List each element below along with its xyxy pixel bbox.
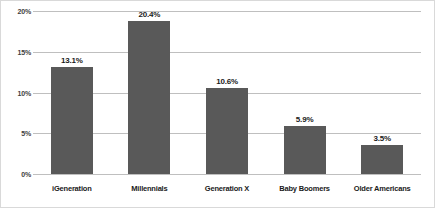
- bar[interactable]: [51, 67, 93, 174]
- bar-value-label: 3.5%: [373, 135, 390, 143]
- bar-group: 5.9%: [266, 11, 344, 174]
- bar[interactable]: [206, 88, 248, 174]
- bar-group: 13.1%: [33, 11, 111, 174]
- x-tick-label: Older Americans: [343, 185, 421, 193]
- bar[interactable]: [128, 21, 170, 174]
- bar-group: 3.5%: [343, 11, 421, 174]
- bar-value-label: 13.1%: [61, 57, 83, 65]
- x-axis-labels: iGenerationMillennialsGeneration XBaby B…: [33, 185, 421, 193]
- bar-chart: 0%5%10%15%20% 13.1%20.4%10.6%5.9%3.5% iG…: [0, 0, 435, 208]
- y-tick-label: 15%: [5, 48, 31, 55]
- x-tick-label: Millennials: [111, 185, 189, 193]
- y-tick-label: 5%: [5, 130, 31, 137]
- bar-group: 10.6%: [188, 11, 266, 174]
- bar-value-label: 10.6%: [216, 78, 238, 86]
- x-axis-line: [33, 174, 421, 175]
- bar-value-label: 20.4%: [139, 11, 161, 19]
- x-tick-label: iGeneration: [33, 185, 111, 193]
- bar-series: 13.1%20.4%10.6%5.9%3.5%: [33, 11, 421, 174]
- bar-group: 20.4%: [111, 11, 189, 174]
- y-tick-label: 20%: [5, 8, 31, 15]
- x-tick-label: Baby Boomers: [266, 185, 344, 193]
- y-tick-label: 0%: [5, 171, 31, 178]
- bar-value-label: 5.9%: [296, 116, 313, 124]
- y-tick-label: 10%: [5, 89, 31, 96]
- y-axis: 0%5%10%15%20%: [1, 11, 31, 174]
- bar[interactable]: [361, 145, 403, 174]
- x-tick-label: Generation X: [188, 185, 266, 193]
- bar[interactable]: [284, 126, 326, 174]
